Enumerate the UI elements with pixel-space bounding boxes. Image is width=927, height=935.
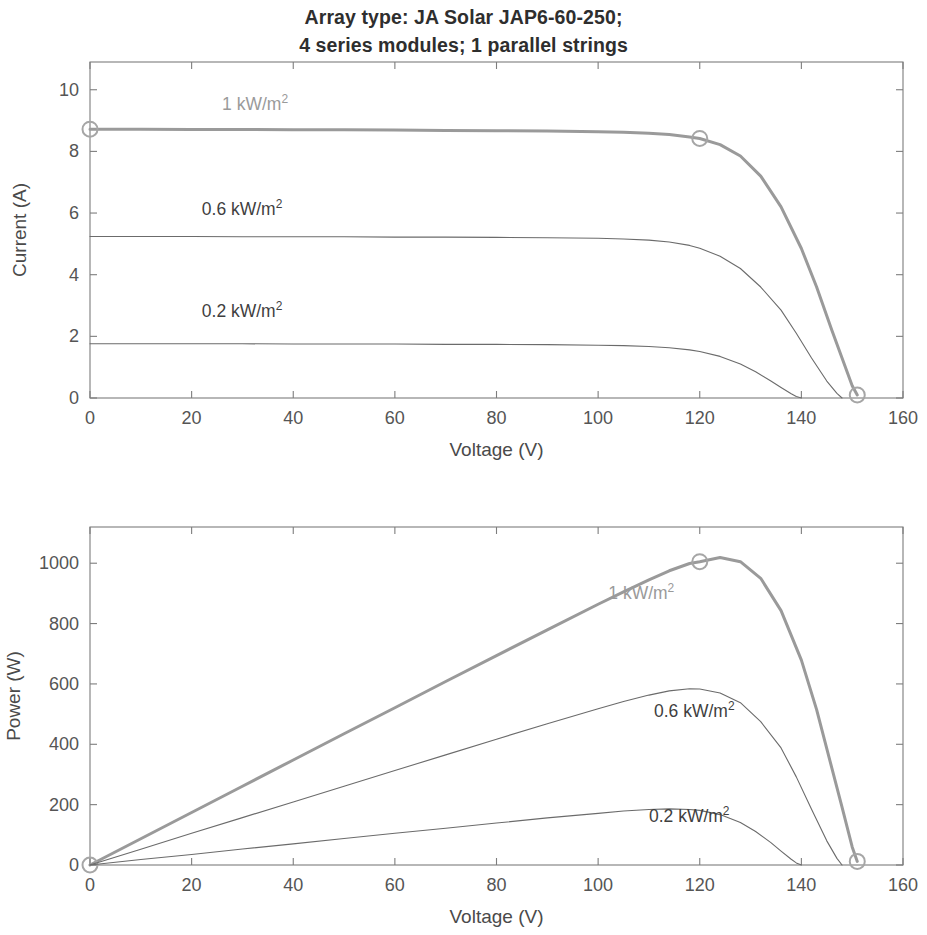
- series-curve: [90, 689, 842, 865]
- y-tick-label: 1000: [39, 553, 79, 573]
- series-annotation-label: 0.2 kW/m2: [649, 804, 730, 826]
- title-line-1: Array type: JA Solar JAP6-60-250;: [0, 4, 927, 32]
- y-tick-label: 4: [69, 265, 79, 285]
- x-tick-label: 80: [486, 408, 506, 428]
- y-tick-label: 0: [69, 855, 79, 875]
- x-tick-label: 0: [85, 875, 95, 895]
- x-tick-label: 40: [283, 875, 303, 895]
- x-tick-label: 60: [385, 408, 405, 428]
- y-tick-label: 10: [59, 80, 79, 100]
- plot-frame: [90, 62, 903, 398]
- iv-plot: 02040608010012014016002468101 kW/m20.6 k…: [0, 55, 927, 475]
- x-tick-label: 20: [182, 408, 202, 428]
- x-tick-label: 100: [583, 875, 613, 895]
- x-tick-label: 120: [685, 875, 715, 895]
- series-curve: [90, 129, 857, 395]
- figure-title: Array type: JA Solar JAP6-60-250; 4 seri…: [0, 4, 927, 59]
- x-axis-label: Voltage (V): [450, 906, 544, 927]
- x-axis-label: Voltage (V): [450, 439, 544, 460]
- x-tick-label: 160: [888, 875, 918, 895]
- series-annotation-label: 0.2 kW/m2: [202, 299, 283, 321]
- x-tick-label: 20: [182, 875, 202, 895]
- y-tick-label: 800: [49, 614, 79, 634]
- series-annotation-label: 1 kW/m2: [222, 92, 288, 114]
- y-tick-label: 200: [49, 795, 79, 815]
- series-curve: [90, 344, 801, 398]
- x-tick-label: 120: [685, 408, 715, 428]
- series-annotation-label: 0.6 kW/m2: [654, 699, 735, 721]
- y-tick-label: 0: [69, 388, 79, 408]
- series-annotation-label: 1 kW/m2: [608, 581, 674, 603]
- y-tick-label: 600: [49, 674, 79, 694]
- y-tick-label: 400: [49, 734, 79, 754]
- plot-frame: [90, 527, 903, 865]
- y-axis-label: Power (W): [3, 651, 24, 741]
- x-tick-label: 100: [583, 408, 613, 428]
- pv-plot: 020406080100120140160020040060080010001 …: [0, 520, 927, 935]
- y-tick-label: 2: [69, 326, 79, 346]
- x-tick-label: 140: [786, 408, 816, 428]
- x-tick-label: 60: [385, 875, 405, 895]
- x-tick-label: 80: [486, 875, 506, 895]
- x-tick-label: 0: [85, 408, 95, 428]
- x-tick-label: 40: [283, 408, 303, 428]
- x-tick-label: 160: [888, 408, 918, 428]
- y-tick-label: 8: [69, 141, 79, 161]
- series-annotation-label: 0.6 kW/m2: [202, 197, 283, 219]
- x-tick-label: 140: [786, 875, 816, 895]
- y-axis-label: Current (A): [9, 183, 30, 277]
- figure-root: Array type: JA Solar JAP6-60-250; 4 seri…: [0, 0, 927, 935]
- y-tick-label: 6: [69, 203, 79, 223]
- series-curve: [90, 557, 857, 865]
